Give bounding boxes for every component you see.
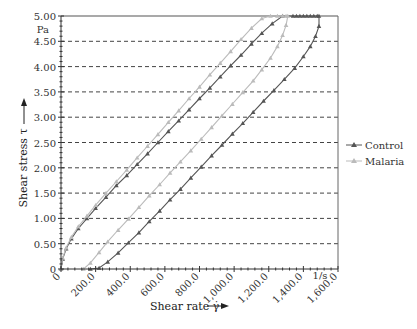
y-tick-label: 1.00: [34, 213, 56, 224]
data-point: [313, 34, 318, 38]
axes: [58, 16, 338, 272]
x-tick-label: 1,400.0: [270, 271, 305, 306]
chart: 00.501.001.502.002.503.003.504.004.505.0…: [0, 0, 417, 329]
x-tick-label: 1,200.0: [235, 271, 270, 306]
y-tick-label: 0.50: [34, 239, 56, 250]
data-point: [317, 24, 322, 28]
y-tick-label: 5.00: [34, 11, 56, 22]
y-tick-labels: 00.501.001.502.002.503.003.504.004.505.0…: [34, 11, 56, 275]
legend-item-control: Control: [346, 140, 403, 151]
y-axis-arrow: [21, 98, 27, 124]
data-point: [308, 44, 313, 48]
data-point: [284, 23, 289, 27]
data-point: [280, 33, 285, 37]
x-tick-label: 0: [50, 271, 62, 283]
y-unit-label: Pa: [37, 24, 49, 35]
y-tick-label: 1.50: [34, 188, 56, 199]
y-tick-label: 3.50: [34, 87, 56, 98]
y-axis-title: Shear stress τ: [17, 128, 30, 207]
grid-lines: [61, 16, 338, 244]
y-tick-label: 3.00: [34, 112, 56, 123]
y-tick-label: 2.50: [34, 138, 56, 149]
legend-label-malaria: Malaria: [365, 156, 404, 167]
data-point: [275, 44, 280, 48]
x-tick-label: 200.0: [69, 271, 97, 299]
y-tick-label: 4.50: [34, 36, 56, 47]
x-tick-label: 600.0: [138, 271, 166, 299]
legend: Control Malaria: [346, 140, 404, 167]
y-tick-label: 4.00: [34, 62, 56, 73]
legend-item-malaria: Malaria: [346, 156, 404, 167]
y-tick-label: 2.00: [34, 163, 56, 174]
x-tick-label: 400.0: [104, 271, 132, 299]
x-tick-label: 800.0: [173, 271, 201, 299]
legend-label-control: Control: [365, 140, 403, 151]
x-unit-label: 1/s: [313, 270, 328, 281]
